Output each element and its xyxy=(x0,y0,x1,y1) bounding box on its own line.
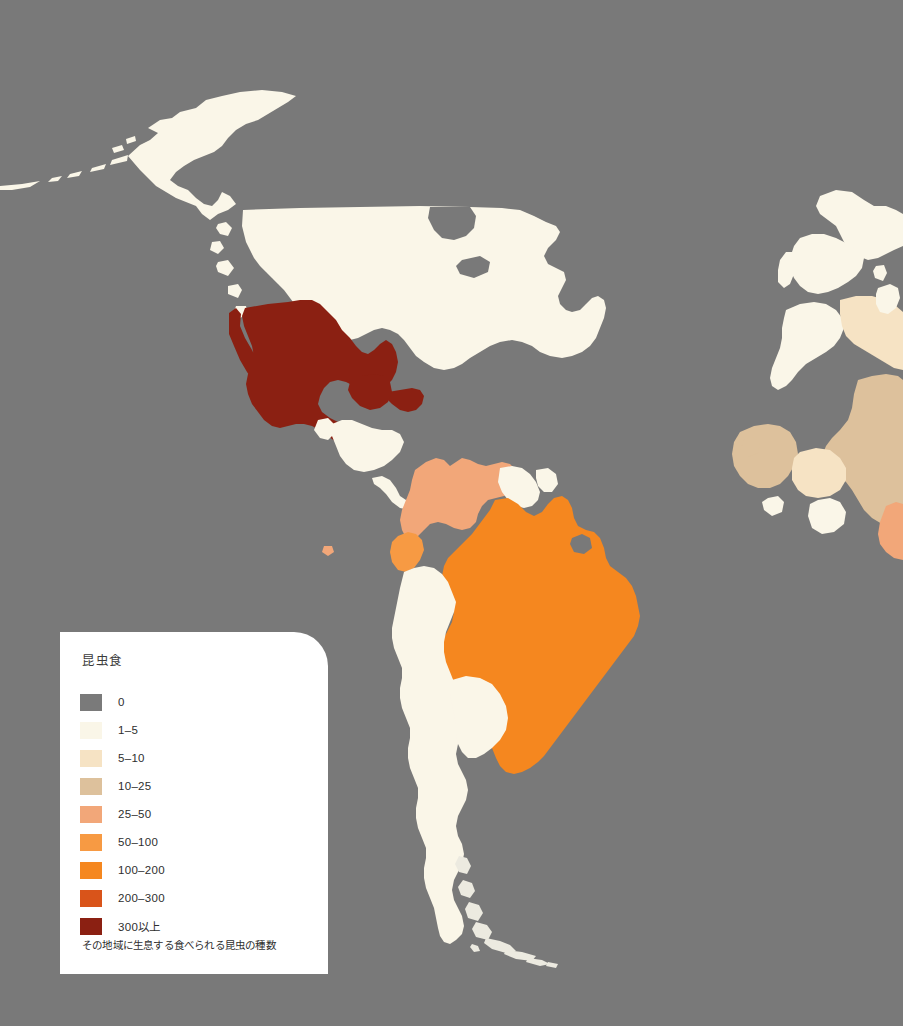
legend-item-1[interactable]: 1–5 xyxy=(80,719,308,741)
legend-label-8: 300以上 xyxy=(118,918,161,934)
map-page: 昆虫食 0 1–5 5–10 10–25 25–50 xyxy=(0,0,903,1026)
legend-swatch-4 xyxy=(80,806,102,823)
legend-item-4[interactable]: 25–50 xyxy=(80,803,308,825)
legend-item-8[interactable]: 300以上 xyxy=(80,915,308,937)
legend-item-6[interactable]: 100–200 xyxy=(80,859,308,881)
legend-item-0[interactable]: 0 xyxy=(80,691,308,713)
legend-label-5: 50–100 xyxy=(118,836,158,848)
legend-label-6: 100–200 xyxy=(118,864,165,876)
legend-swatch-8 xyxy=(80,918,102,935)
legend-swatch-5 xyxy=(80,834,102,851)
legend-swatch-2 xyxy=(80,750,102,767)
legend-caption: その地域に生息する食べられる昆虫の種数 xyxy=(82,937,276,952)
legend-swatch-0 xyxy=(80,694,102,711)
legend-label-0: 0 xyxy=(118,696,125,708)
legend-item-7[interactable]: 200–300 xyxy=(80,887,308,909)
legend-item-3[interactable]: 10–25 xyxy=(80,775,308,797)
legend-item-list: 0 1–5 5–10 10–25 25–50 50–100 xyxy=(80,691,308,937)
map-legend: 昆虫食 0 1–5 5–10 10–25 25–50 xyxy=(60,632,328,974)
legend-label-2: 5–10 xyxy=(118,752,145,764)
legend-label-7: 200–300 xyxy=(118,892,165,904)
legend-label-3: 10–25 xyxy=(118,780,151,792)
legend-swatch-7 xyxy=(80,890,102,907)
legend-item-5[interactable]: 50–100 xyxy=(80,831,308,853)
legend-label-1: 1–5 xyxy=(118,724,138,736)
legend-label-4: 25–50 xyxy=(118,808,151,820)
legend-swatch-6 xyxy=(80,862,102,879)
legend-item-2[interactable]: 5–10 xyxy=(80,747,308,769)
legend-swatch-1 xyxy=(80,722,102,739)
legend-swatch-3 xyxy=(80,778,102,795)
legend-title: 昆虫食 xyxy=(82,654,308,669)
